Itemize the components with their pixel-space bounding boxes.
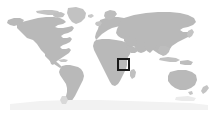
region-highlight-box	[117, 58, 130, 71]
world-locator-map	[0, 0, 214, 114]
world-map-svg	[0, 0, 214, 114]
